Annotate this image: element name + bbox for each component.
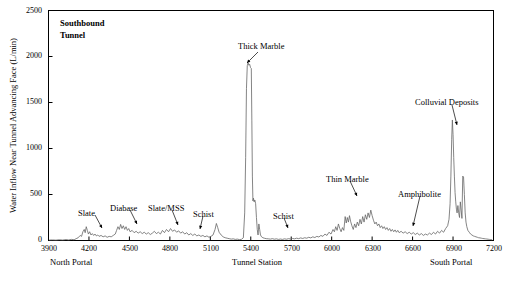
annotation-amphibolite: Amphibolite: [398, 189, 441, 199]
annotation-diabase: Diabase: [110, 203, 137, 213]
x-tick-7200: 7200: [479, 245, 509, 253]
x-tick-6600: 6600: [398, 245, 428, 253]
x-tick-5100: 5100: [196, 245, 226, 253]
x-tick-4200: 4200: [74, 245, 104, 253]
chart-title-line2: Tunnel: [60, 30, 85, 41]
annotation-schist-2: Schist: [273, 211, 294, 221]
annotation-slate-mss: Slate/MSS: [148, 203, 184, 213]
x-axis-title: Tunnel Station: [232, 257, 282, 267]
x-tick-6900: 6900: [439, 245, 469, 253]
x-tick-5700: 5700: [277, 245, 307, 253]
y-tick-2500: 2500: [12, 7, 42, 15]
south-portal-label: South Portal: [430, 257, 472, 267]
x-tick-4500: 4500: [115, 245, 145, 253]
y-tick-500: 500: [12, 190, 42, 198]
annotation-slate: Slate: [78, 208, 95, 218]
y-tick-1000: 1000: [12, 144, 42, 152]
annotation-schist-1: Schist: [193, 209, 214, 219]
y-tick-0: 0: [12, 236, 42, 244]
chart-title-line1: Southbound: [60, 18, 104, 29]
chart-root: Water Inflow Near Tunnel Advancing Face …: [0, 0, 510, 291]
x-tick-3900: 3900: [34, 245, 64, 253]
x-tick-6300: 6300: [358, 245, 388, 253]
annotation-colluvial: Colluvial Deposits: [415, 97, 479, 107]
x-tick-5400: 5400: [236, 245, 266, 253]
y-tick-1500: 1500: [12, 98, 42, 106]
annotation-thin-marble: Thin Marble: [326, 174, 369, 184]
north-portal-label: North Portal: [50, 257, 92, 267]
y-axis-title: Water Inflow Near Tunnel Advancing Face …: [6, 10, 20, 241]
x-tick-6000: 6000: [317, 245, 347, 253]
y-tick-2000: 2000: [12, 52, 42, 60]
annotation-thick-marble: Thick Marble: [238, 41, 285, 51]
x-tick-4800: 4800: [155, 245, 185, 253]
